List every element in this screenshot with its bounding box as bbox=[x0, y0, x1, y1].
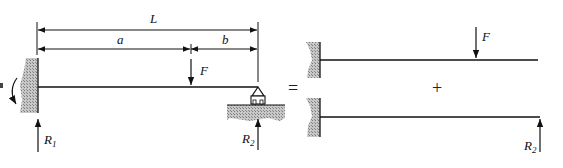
label-R1: R1 bbox=[43, 132, 56, 149]
label-F: F bbox=[199, 63, 209, 78]
dimension-a-b: a b bbox=[38, 32, 257, 54]
original-beam: L a b F R1 bbox=[0, 11, 285, 152]
moment-arrow-icon bbox=[12, 78, 17, 104]
fixed-wall-hatch bbox=[20, 58, 38, 113]
pin-roller-support bbox=[227, 87, 285, 121]
fixed-wall-hatch bbox=[306, 98, 320, 137]
equals-sign: = bbox=[288, 78, 298, 98]
plus-sign: + bbox=[432, 78, 442, 98]
label-R2: R2 bbox=[523, 138, 537, 155]
label-b: b bbox=[222, 32, 229, 47]
label-R2: R2 bbox=[241, 131, 255, 148]
fixed-wall-hatch bbox=[306, 42, 320, 78]
case-2-beam: R2 bbox=[306, 98, 540, 155]
beam-superposition-diagram: L a b F R1 bbox=[0, 0, 563, 168]
case-1-beam: F bbox=[306, 27, 538, 78]
moment-label-fragment bbox=[0, 83, 3, 88]
label-a: a bbox=[117, 32, 124, 47]
label-F: F bbox=[481, 29, 491, 44]
label-L: L bbox=[149, 11, 157, 26]
